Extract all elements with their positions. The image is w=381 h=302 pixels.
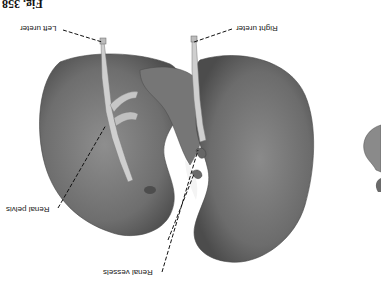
figure-number: Fig. 358 (2, 0, 43, 11)
label-right-ureter: Right ureter (236, 24, 278, 33)
left-ureter-cut-end (100, 38, 106, 44)
leader-right-ureter (194, 29, 232, 42)
kidney-illustration (0, 0, 381, 302)
label-renal-pelvis: Renal pelvis (6, 205, 50, 214)
anatomy-figure: Fig. 358 Left ureter Right ureter Renal … (0, 0, 381, 302)
leader-left-ureter (63, 30, 102, 42)
right-kidney (194, 55, 314, 262)
label-left-ureter: Left ureter (20, 24, 56, 33)
label-renal-vessels: Renal vessels (103, 268, 153, 277)
vertebra-partial (364, 125, 381, 172)
